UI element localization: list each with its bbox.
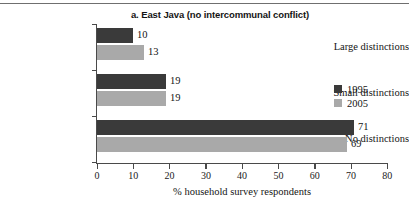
bar-1995-small-distinctions[interactable] — [97, 74, 166, 89]
x-axis-tick — [242, 164, 243, 169]
x-axis-title: % household survey respondents — [97, 186, 387, 197]
y-axis-tick — [92, 24, 97, 25]
x-axis-tick-label: 0 — [95, 170, 100, 181]
x-axis-tick — [133, 164, 134, 169]
bar-value-1995-large-distinctions: 10 — [137, 29, 148, 40]
legend-label-2005: 2005 — [347, 98, 368, 109]
bar-1995-no-distinctions[interactable] — [97, 120, 354, 135]
bar-1995-large-distinctions[interactable] — [97, 28, 133, 43]
x-axis-tick — [387, 164, 388, 169]
legend-swatch-2005-icon — [334, 99, 342, 107]
figure-panel: a. East Java (no intercommunal conflict)… — [0, 0, 409, 209]
x-axis-tick — [314, 164, 315, 169]
bar-2005-large-distinctions[interactable] — [97, 45, 144, 60]
x-axis-tick-label: 60 — [310, 170, 320, 181]
legend-item-2005[interactable]: 2005 — [334, 93, 368, 107]
chart-legend: 1995 2005 — [334, 79, 368, 107]
y-axis-tick — [92, 70, 97, 71]
x-axis-tick-label: 40 — [237, 170, 247, 181]
x-axis-tick — [278, 164, 279, 169]
category-label-large-distinctions: Large distinctions — [317, 41, 409, 52]
y-axis-tick — [92, 116, 97, 117]
x-axis-tick-label: 10 — [128, 170, 138, 181]
chart-title: a. East Java (no intercommunal conflict) — [100, 9, 340, 20]
x-axis-tick — [205, 164, 206, 169]
x-axis-tick-label: 50 — [273, 170, 283, 181]
x-axis-tick-label: 30 — [201, 170, 211, 181]
bar-value-2005-large-distinctions: 13 — [148, 46, 159, 57]
x-axis-tick-label: 20 — [165, 170, 175, 181]
bar-2005-small-distinctions[interactable] — [97, 91, 166, 106]
x-axis-tick — [97, 164, 98, 169]
bar-2005-no-distinctions[interactable] — [97, 137, 347, 152]
bar-value-2005-no-distinctions: 69 — [351, 138, 362, 149]
bar-value-1995-no-distinctions: 71 — [358, 121, 369, 132]
top-divider-rule — [0, 3, 409, 4]
x-axis-tick — [351, 164, 352, 169]
bar-value-2005-small-distinctions: 19 — [170, 92, 181, 103]
bar-value-1995-small-distinctions: 19 — [170, 75, 181, 86]
x-axis-tick-label: 80 — [382, 170, 392, 181]
x-axis-tick — [169, 164, 170, 169]
x-axis-tick-label: 70 — [346, 170, 356, 181]
legend-item-1995[interactable]: 1995 — [334, 79, 368, 93]
